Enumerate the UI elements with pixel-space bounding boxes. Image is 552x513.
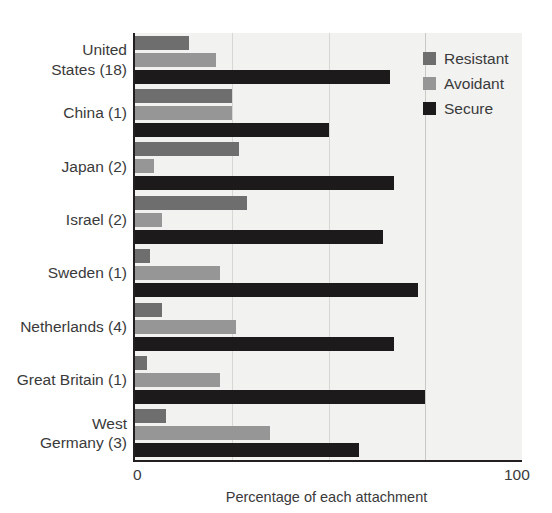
bar-avoidant <box>135 53 216 67</box>
x-axis-tick-min: 0 <box>133 466 142 484</box>
bar-secure <box>135 123 329 137</box>
attachment-styles-bar-chart: United States (18)China (1)Japan (2)Isra… <box>0 0 552 513</box>
bar-avoidant <box>135 159 154 173</box>
category-label: Japan (2) <box>0 157 127 177</box>
bar-secure <box>135 283 418 297</box>
bar-secure <box>135 390 425 404</box>
bar-avoidant <box>135 373 220 387</box>
legend-swatch-avoidant-icon <box>423 77 436 90</box>
bar-group <box>135 300 522 353</box>
bar-resistant <box>135 409 166 423</box>
category-label: China (1) <box>0 103 127 123</box>
legend-label: Avoidant <box>444 76 504 92</box>
bar-avoidant <box>135 266 220 280</box>
legend-label: Resistant <box>444 51 509 67</box>
legend: ResistantAvoidantSecure <box>423 46 543 121</box>
legend-swatch-secure-icon <box>423 102 436 115</box>
legend-swatch-resistant-icon <box>423 52 436 65</box>
category-label: Israel (2) <box>0 210 127 230</box>
legend-item-secure: Secure <box>423 96 543 121</box>
bar-group <box>135 193 522 246</box>
bar-resistant <box>135 196 247 210</box>
bar-group <box>135 140 522 193</box>
category-axis-labels: United States (18)China (1)Japan (2)Isra… <box>0 33 127 460</box>
bar-avoidant <box>135 213 162 227</box>
category-label: Great Britain (1) <box>0 370 127 390</box>
bar-resistant <box>135 356 147 370</box>
legend-item-avoidant: Avoidant <box>423 71 543 96</box>
bar-group <box>135 407 522 460</box>
category-label: United States (18) <box>0 40 127 79</box>
bar-resistant <box>135 142 239 156</box>
category-label: Sweden (1) <box>0 263 127 283</box>
category-label: West Germany (3) <box>0 414 127 453</box>
bar-resistant <box>135 303 162 317</box>
bar-avoidant <box>135 320 236 334</box>
bar-resistant <box>135 36 189 50</box>
x-axis-tick-max: 100 <box>504 466 530 484</box>
bar-group <box>135 247 522 300</box>
bar-group <box>135 353 522 406</box>
bar-secure <box>135 230 383 244</box>
legend-label: Secure <box>444 101 493 117</box>
bar-secure <box>135 70 390 84</box>
legend-item-resistant: Resistant <box>423 46 543 71</box>
category-label: Netherlands (4) <box>0 317 127 337</box>
bar-secure <box>135 176 394 190</box>
bar-resistant <box>135 89 232 103</box>
bar-resistant <box>135 249 150 263</box>
bar-avoidant <box>135 426 270 440</box>
bar-secure <box>135 443 359 457</box>
bar-avoidant <box>135 106 232 120</box>
bar-secure <box>135 337 394 351</box>
x-axis-title: Percentage of each attachment <box>133 489 520 505</box>
